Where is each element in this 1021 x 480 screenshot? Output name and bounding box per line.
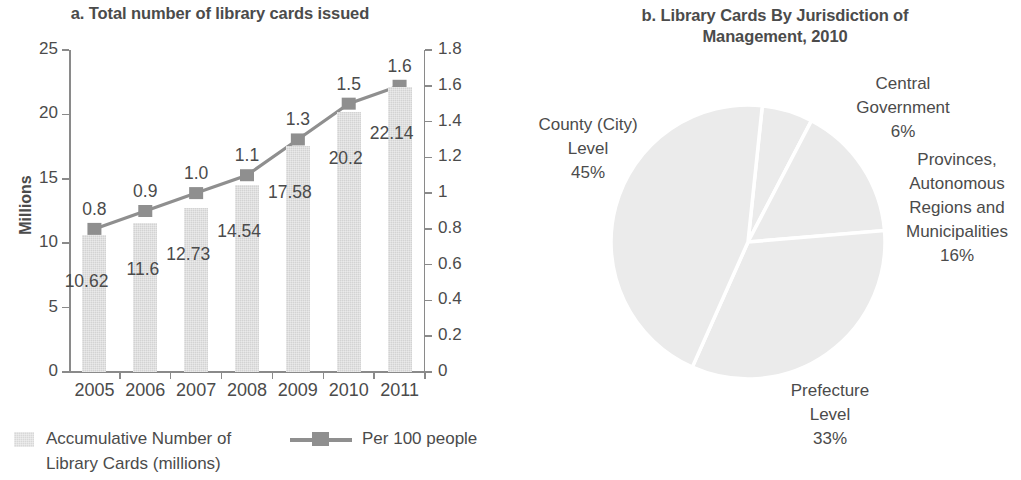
right-axis-tick-label: 1.6 <box>438 75 462 95</box>
bar-value-label: 14.54 <box>197 221 261 242</box>
legend-bar-swatch-icon <box>14 432 34 447</box>
panel-a-bar-chart: a. Total number of library cards issued … <box>0 0 510 480</box>
bar <box>82 235 106 372</box>
line-value-label: 1.6 <box>376 56 424 77</box>
x-axis-tick <box>272 372 274 379</box>
bar <box>286 146 310 372</box>
legend-line-label: Per 100 people <box>362 426 477 451</box>
x-axis-tick <box>119 372 121 379</box>
left-axis-tick <box>62 307 69 309</box>
right-axis-tick <box>425 300 432 302</box>
line-marker <box>138 205 152 217</box>
right-axis-tick-label: 0.4 <box>438 289 462 309</box>
line-marker <box>342 98 356 110</box>
bar-value-label: 12.73 <box>146 244 210 265</box>
left-axis-tick <box>62 49 69 51</box>
left-axis-tick <box>62 114 69 116</box>
pie-label-central-government: Central Government 6% <box>828 72 978 144</box>
x-axis-tick-label: 2006 <box>117 380 173 401</box>
right-axis-tick-label: 1.4 <box>438 111 462 131</box>
left-axis-tick-label: 0 <box>49 361 58 381</box>
x-axis-tick <box>170 372 172 379</box>
x-axis-tick-label: 2007 <box>168 380 224 401</box>
right-axis-tick <box>425 228 432 230</box>
left-axis-tick <box>62 178 69 180</box>
left-axis-tick-label: 15 <box>39 168 58 188</box>
right-axis-tick <box>425 157 432 159</box>
legend-bars-label: Accumulative Number of Library Cards (mi… <box>46 426 276 476</box>
left-axis-tick-label: 20 <box>39 103 58 123</box>
line-marker <box>189 187 203 199</box>
right-axis-tick <box>425 335 432 337</box>
right-axis-tick <box>425 264 432 266</box>
panel-a-title: a. Total number of library cards issued <box>20 3 420 24</box>
x-axis-tick <box>373 372 375 379</box>
line-marker <box>87 223 101 235</box>
line-marker <box>240 169 254 181</box>
y-axis-title: Millions <box>17 155 35 255</box>
bar-value-label: 17.58 <box>248 182 312 203</box>
line-value-label: 1.3 <box>274 109 322 130</box>
bar-value-label: 20.2 <box>299 148 363 169</box>
left-axis-tick-label: 5 <box>49 297 58 317</box>
x-axis-tick-label: 2011 <box>372 380 428 401</box>
right-axis-tick <box>425 49 432 51</box>
line-value-label: 1.0 <box>172 163 220 184</box>
pie-label-county-city-level: County (City) Level 45% <box>508 113 668 185</box>
right-axis-tick-label: 1 <box>438 182 447 202</box>
pie-area: County (City) Level 45% Central Governme… <box>510 0 1021 480</box>
right-axis-tick-label: 1.2 <box>438 146 462 166</box>
line-value-label: 1.5 <box>325 74 373 95</box>
plot-area-a: 25201510501.81.61.41.210.80.60.40.202005… <box>69 50 425 372</box>
left-axis-tick <box>62 371 69 373</box>
line-marker <box>291 133 305 145</box>
line-value-label: 0.8 <box>70 199 118 220</box>
pie-label-provinces-autonomous: Provinces, Autonomous Regions and Munici… <box>893 148 1021 268</box>
right-axis-tick-label: 0.6 <box>438 254 462 274</box>
right-axis-tick-label: 1.8 <box>438 39 462 59</box>
right-axis-tick <box>425 85 432 87</box>
panel-b-pie-chart: b. Library Cards By Jurisdiction of Mana… <box>510 0 1021 480</box>
bar-value-label: 22.14 <box>350 123 414 144</box>
pie-label-prefecture-level: Prefecture Level 33% <box>740 379 920 451</box>
x-axis-tick-label: 2009 <box>270 380 326 401</box>
legend-a: Accumulative Number of Library Cards (mi… <box>14 428 504 476</box>
x-axis-tick-label: 2010 <box>321 380 377 401</box>
x-axis-tick-label: 2005 <box>66 380 122 401</box>
line-value-label: 1.1 <box>223 145 271 166</box>
right-axis-tick <box>425 371 432 373</box>
figure-root: a. Total number of library cards issued … <box>0 0 1021 480</box>
x-axis-tick <box>221 372 223 379</box>
left-axis-tick-label: 25 <box>39 39 58 59</box>
bar <box>235 185 259 372</box>
left-axis-tick <box>62 242 69 244</box>
x-axis-tick-label: 2008 <box>219 380 275 401</box>
left-axis-tick-label: 10 <box>39 232 58 252</box>
right-axis-tick-label: 0.8 <box>438 218 462 238</box>
right-axis-tick <box>425 192 432 194</box>
legend-line-marker-icon <box>290 430 352 448</box>
right-axis-tick-label: 0.2 <box>438 325 462 345</box>
right-axis-tick <box>425 121 432 123</box>
line-value-label: 0.9 <box>121 181 169 202</box>
x-axis-tick <box>424 372 426 379</box>
x-axis-tick <box>323 372 325 379</box>
right-axis-tick-label: 0 <box>438 361 447 381</box>
